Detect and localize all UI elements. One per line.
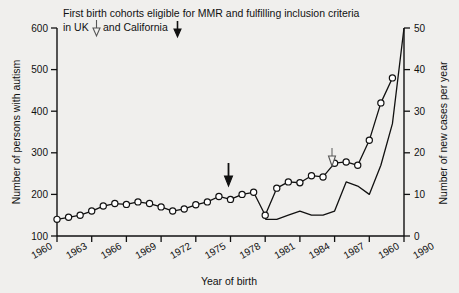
data-point-marker: [251, 189, 257, 195]
y2-tick-label-30: 30: [414, 106, 426, 117]
data-point-marker: [378, 100, 384, 106]
y-axis-title: Number of persons with autism: [10, 59, 22, 204]
data-point-marker: [112, 200, 118, 206]
data-point-marker: [54, 216, 60, 222]
data-point-marker: [239, 191, 245, 197]
y2-tick-label-50: 50: [414, 23, 426, 34]
chart-caption-line-2-uk: in UK: [63, 21, 89, 33]
data-point-marker: [308, 173, 314, 179]
data-point-marker: [193, 202, 199, 208]
data-point-marker: [262, 212, 268, 218]
autism-mmr-chart-svg: First birth cohorts eligible for MMR and…: [0, 0, 459, 293]
y2-tick-label-0: 0: [414, 231, 420, 242]
data-point-marker: [100, 203, 106, 209]
data-point-marker: [285, 179, 291, 185]
chart-caption-line-2-california: and California: [103, 21, 168, 33]
data-point-marker: [65, 214, 71, 220]
data-point-marker: [123, 201, 129, 207]
data-point-marker: [366, 137, 372, 143]
data-point-marker: [297, 180, 303, 186]
x-axis-title: Year of birth: [201, 275, 257, 287]
data-point-marker: [343, 159, 349, 165]
data-point-marker: [89, 208, 95, 214]
data-point-marker: [227, 196, 233, 202]
data-point-marker: [204, 199, 210, 205]
data-point-marker: [158, 204, 164, 210]
y2-axis-title: Number of new cases per year: [437, 61, 449, 204]
data-point-marker: [216, 193, 222, 199]
y-tick-label-400: 400: [31, 106, 48, 117]
data-point-marker: [181, 206, 187, 212]
data-point-marker: [135, 199, 141, 205]
data-point-marker: [146, 200, 152, 206]
data-point-marker: [274, 185, 280, 191]
data-point-marker: [355, 162, 361, 168]
chart-figure: First birth cohorts eligible for MMR and…: [0, 0, 459, 293]
data-point-marker: [77, 212, 83, 218]
y2-tick-label-40: 40: [414, 64, 426, 75]
data-point-marker: [170, 208, 176, 214]
chart-caption-line-1: First birth cohorts eligible for MMR and…: [63, 7, 360, 19]
y-tick-label-600: 600: [31, 23, 48, 34]
y-tick-label-100: 100: [31, 231, 48, 242]
y-tick-label-500: 500: [31, 64, 48, 75]
y2-tick-label-10: 10: [414, 189, 426, 200]
data-point-marker: [320, 174, 326, 180]
data-point-marker: [389, 75, 395, 81]
y2-tick-label-20: 20: [414, 147, 426, 158]
y-tick-label-200: 200: [31, 189, 48, 200]
y-tick-label-300: 300: [31, 147, 48, 158]
